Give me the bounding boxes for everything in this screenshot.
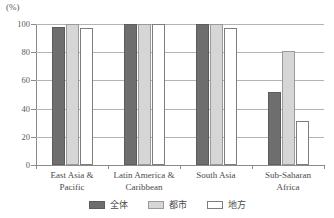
bar-chart: (%) 全体都市地方 020406080100East Asia & Pacif… [0,0,334,218]
bar-group-bars [180,24,252,165]
y-tick-label-40: 40 [4,104,30,114]
x-tick-mark [324,165,325,169]
x-tick-mark [108,165,109,169]
bar-rural[interactable] [296,121,309,165]
bar-urban[interactable] [66,24,79,165]
bar-urban[interactable] [210,24,223,165]
chart-legend: 全体都市地方 [0,198,334,211]
bar-rural[interactable] [224,28,237,165]
bar-group-bars [108,24,180,165]
bar-group [36,24,108,165]
bar-group-bars [252,24,324,165]
legend-label: 都市 [169,198,187,211]
bar-group-bars [36,24,108,165]
legend-label: 地方 [228,198,246,211]
legend-label: 全体 [110,198,128,211]
x-tick-mark [36,165,37,169]
legend-swatch-urban [148,201,164,209]
y-tick-label-0: 0 [4,160,30,170]
y-tick-label-20: 20 [4,132,30,142]
x-tick-mark [252,165,253,169]
x-axis-label: East Asia & Pacific [36,170,108,193]
legend-item[interactable]: 都市 [148,198,187,211]
legend-item[interactable]: 地方 [207,198,246,211]
bar-total[interactable] [52,27,65,165]
x-tick-mark [180,165,181,169]
bar-urban[interactable] [138,24,151,165]
legend-item[interactable]: 全体 [89,198,128,211]
legend-swatch-total [89,201,105,209]
y-tick-label-60: 60 [4,75,30,85]
bar-rural[interactable] [80,28,93,165]
legend-swatch-rural [207,201,223,209]
x-axis-label: Latin America & Caribbean [108,170,180,193]
bar-total[interactable] [268,92,281,165]
bar-group [252,24,324,165]
x-axis-label: Sub-Saharan Africa [252,170,324,193]
bar-rural[interactable] [152,24,165,165]
bar-urban[interactable] [282,51,295,165]
bar-group [108,24,180,165]
bar-group [180,24,252,165]
x-axis-label: South Asia [180,170,252,182]
y-tick-label-100: 100 [4,19,30,29]
plot-area [36,24,324,165]
bar-total[interactable] [196,24,209,165]
bar-total[interactable] [124,24,137,165]
y-tick-label-80: 80 [4,47,30,57]
y-axis-unit-label: (%) [6,2,20,12]
